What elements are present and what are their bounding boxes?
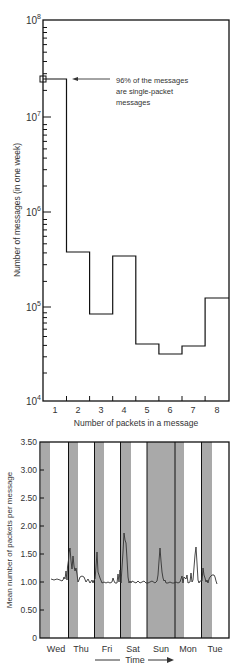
svg-text:1.50: 1.50 [20,549,37,559]
svg-text:8: 8 [214,405,219,415]
svg-text:5: 5 [37,300,41,307]
svg-text:5: 5 [144,405,149,415]
svg-text:10: 10 [26,15,38,26]
top-x-tickmarks [67,396,206,401]
bottom-y-labels: 3.50 3.00 2.50 2.00 1.50 1.00 0.50 0 [20,437,37,643]
arrow-right-icon [167,657,174,663]
svg-text:3.00: 3.00 [20,465,37,475]
svg-text:10: 10 [26,207,38,218]
svg-text:2.00: 2.00 [20,521,37,531]
svg-text:Thu: Thu [73,644,89,654]
svg-text:Fri: Fri [102,644,113,654]
svg-text:1: 1 [52,405,57,415]
svg-text:3: 3 [98,405,103,415]
histogram-steps [43,79,229,354]
svg-text:10: 10 [26,396,38,407]
svg-text:0.50: 0.50 [20,605,37,615]
svg-text:4: 4 [121,405,126,415]
figure: 10 8 10 7 10 6 10 5 10 4 [0,0,242,665]
svg-text:Sun: Sun [153,644,169,654]
bottom-x-labels: Wed Thu Fri Sat Sun Mon Tue [47,644,223,654]
top-x-axis-label: Number of packets in a message [74,418,199,428]
svg-text:are single-packet: are single-packet [116,87,174,96]
top-x-labels: 1 2 3 4 5 6 7 8 [52,405,219,415]
time-axis-label: Time [95,655,174,665]
svg-text:7: 7 [190,405,195,415]
top-y-ticks: 10 8 10 7 10 6 10 5 10 4 [26,13,41,407]
bottom-chart: 3.50 3.00 2.50 2.00 1.50 1.00 0.50 0 Mea… [5,437,229,665]
svg-text:messages: messages [116,98,150,107]
svg-text:6: 6 [167,405,172,415]
svg-text:2.50: 2.50 [20,493,37,503]
annotation: 96% of the messages are single-packet me… [72,76,188,107]
bottom-y-axis-label: Mean number of packets per message [5,471,14,608]
svg-text:Tue: Tue [207,644,222,654]
svg-text:7: 7 [37,110,41,117]
svg-text:Sat: Sat [126,644,140,654]
svg-text:6: 6 [37,205,41,212]
svg-text:3.50: 3.50 [20,437,37,447]
svg-text:Mon: Mon [179,644,197,654]
svg-text:4: 4 [37,394,41,401]
svg-text:10: 10 [26,112,38,123]
svg-text:96% of the messages: 96% of the messages [116,76,188,85]
svg-text:2: 2 [75,405,80,415]
svg-text:Time: Time [125,655,145,665]
top-chart: 10 8 10 7 10 6 10 5 10 4 [12,13,229,428]
svg-text:10: 10 [26,302,38,313]
top-y-axis-label: Number of messages (in one week) [12,143,22,277]
svg-text:Wed: Wed [47,644,65,654]
svg-text:0: 0 [32,633,37,643]
svg-text:1.00: 1.00 [20,577,37,587]
ytick-exp: 8 [37,13,41,20]
night-bands [41,442,212,638]
